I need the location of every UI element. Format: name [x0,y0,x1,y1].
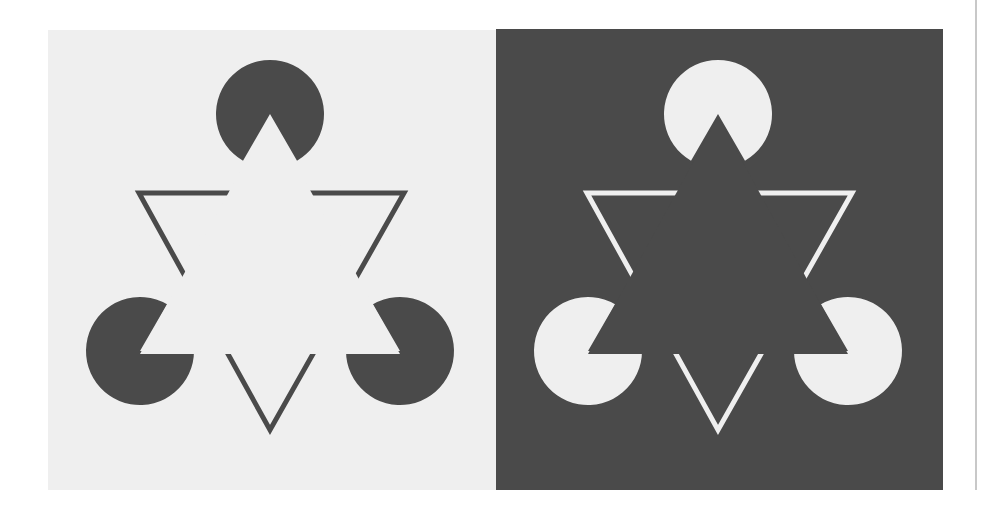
illusory-triangle [588,117,848,354]
kanizsa-figure [0,0,997,517]
dark-panel [496,29,943,490]
illusion-canvas [48,30,496,490]
illusion-canvas [496,29,943,490]
illusory-triangle [140,117,400,354]
light-panel [48,30,496,490]
vertical-divider [975,0,977,490]
